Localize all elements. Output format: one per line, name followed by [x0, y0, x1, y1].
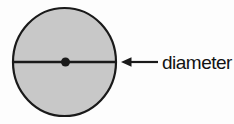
diameter-label: diameter	[162, 53, 232, 72]
diameter-label-container: diameter	[162, 0, 232, 124]
center-dot	[61, 58, 70, 67]
circle-diameter-diagram: diameter	[0, 0, 234, 124]
arrowhead-left-icon	[121, 57, 132, 67]
